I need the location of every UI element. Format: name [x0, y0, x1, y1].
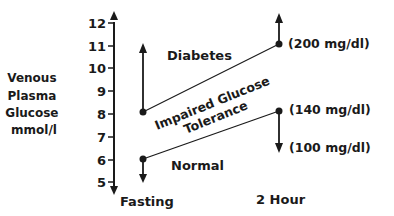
- svg-text:6: 6: [97, 153, 106, 168]
- up-arrow-icon: [139, 43, 147, 53]
- two-hour-lower-point: [276, 108, 283, 115]
- mg140-annotation: (140 mg/dl): [289, 102, 371, 117]
- y-tick-labels: 12 11 10 9 8 7 6 5: [88, 16, 106, 190]
- fasting-label: Fasting: [120, 194, 174, 209]
- two-hour-label: 2 Hour: [256, 192, 306, 207]
- svg-text:7: 7: [97, 130, 106, 145]
- down-arrow-icon: [275, 143, 283, 153]
- two-hour-upper-point: [276, 41, 283, 48]
- svg-text:5: 5: [97, 175, 106, 190]
- glucose-diagram: Venous Plasma Glucose mmol/l 12 11 10 9 …: [0, 0, 394, 216]
- diabetes-label: Diabetes: [167, 48, 232, 63]
- mg200-annotation: (200 mg/dl): [288, 36, 370, 51]
- y-axis-label: Venous Plasma Glucose mmol/l: [5, 71, 62, 137]
- down-arrow-icon: [139, 174, 147, 183]
- up-arrow-icon: [275, 13, 283, 23]
- axis-up-arrow-icon: [110, 11, 118, 20]
- mg100-annotation: (100 mg/dl): [289, 140, 371, 155]
- svg-text:10: 10: [88, 61, 106, 76]
- normal-label: Normal: [171, 158, 224, 173]
- axis-down-arrow-icon: [110, 186, 118, 195]
- svg-text:8: 8: [97, 107, 106, 122]
- svg-text:9: 9: [97, 84, 106, 99]
- svg-text:11: 11: [88, 39, 106, 54]
- svg-text:12: 12: [88, 16, 106, 31]
